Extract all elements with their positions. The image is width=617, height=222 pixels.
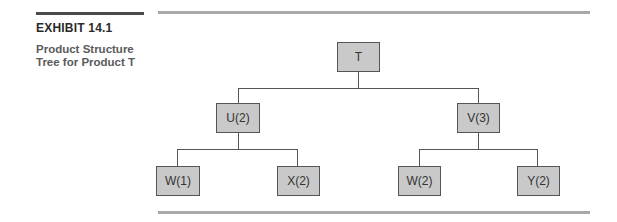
connector-u-down	[238, 132, 239, 149]
connector-root-down	[358, 71, 359, 89]
node-root-t: T	[337, 42, 380, 72]
node-w1: W(1)	[156, 166, 200, 196]
connector-to-v	[478, 88, 479, 103]
node-label: V(3)	[467, 111, 490, 125]
node-label: Y(2)	[527, 174, 550, 188]
node-v: V(3)	[457, 103, 500, 133]
node-w2: W(2)	[398, 166, 441, 196]
connector-v-children-horizontal	[419, 149, 538, 150]
node-label: X(2)	[287, 174, 310, 188]
node-x2: X(2)	[277, 166, 320, 196]
node-label: W(1)	[165, 174, 191, 188]
connector-to-w2	[419, 149, 420, 166]
node-label: W(2)	[407, 174, 433, 188]
connector-v-down	[478, 132, 479, 149]
node-y2: Y(2)	[517, 166, 560, 196]
footer-rule	[158, 211, 590, 214]
connector-to-w1	[177, 149, 178, 166]
exhibit-label: EXHIBIT 14.1	[36, 21, 112, 35]
exhibit-caption: Product Structure Tree for Product T	[36, 43, 156, 69]
node-label: U(2)	[226, 111, 249, 125]
header-rule-top	[158, 11, 590, 14]
header-rule-left	[36, 12, 144, 15]
node-label: T	[355, 50, 362, 64]
caption-line-1: Product Structure	[36, 43, 156, 56]
caption-line-2: Tree for Product T	[36, 56, 156, 69]
node-u: U(2)	[216, 103, 260, 133]
connector-to-u	[238, 88, 239, 103]
connector-to-y2	[537, 149, 538, 166]
connector-u-children-horizontal	[177, 149, 298, 150]
connector-to-x2	[297, 149, 298, 166]
connector-level1-horizontal	[238, 88, 479, 89]
